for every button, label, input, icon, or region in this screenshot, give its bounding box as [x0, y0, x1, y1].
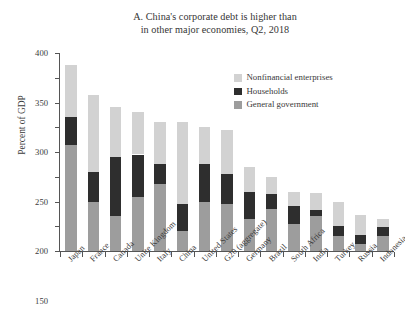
bar-segment-households: [377, 227, 389, 236]
bar-segment-households: [355, 235, 367, 244]
y-tick-mark: 250: [55, 127, 60, 128]
y-tick-mark: 350: [55, 78, 60, 79]
bar-segment-households: [65, 117, 77, 144]
bar-segment-households: [244, 192, 256, 219]
bar-canada: [110, 107, 122, 251]
chart-title: A. China's corporate debt is higher than…: [95, 10, 335, 36]
chart-legend: Nonfinancial enterprisesHouseholdsGenera…: [234, 71, 333, 112]
y-tick-mark: 400: [55, 53, 60, 54]
bar-unite-kingdom: [132, 112, 144, 251]
legend-item: General government: [234, 98, 333, 112]
bar-segment-nonfinancial-enterprises: [333, 202, 345, 227]
y-tick-label: 250: [35, 197, 48, 206]
bar-south-africa: [288, 192, 300, 251]
y-tick-label: 350: [35, 98, 48, 107]
bar-segment-nonfinancial-enterprises: [310, 193, 322, 210]
y-tick-mark: 150: [55, 177, 60, 178]
bar-segment-households: [221, 174, 233, 204]
y-tick-mark: 50: [55, 226, 60, 227]
bar-france: [88, 95, 100, 251]
bar-segment-nonfinancial-enterprises: [177, 122, 189, 204]
bar-segment-households: [154, 164, 166, 184]
chart-title-line-1: A. China's corporate debt is higher than: [95, 10, 335, 23]
y-tick-label: 400: [35, 49, 48, 58]
plot-area: 400350300250200150100500 JapanFranceCana…: [60, 53, 394, 251]
bar-segment-nonfinancial-enterprises: [244, 167, 256, 192]
y-tick-label: 200: [35, 247, 48, 256]
bar-united-states: [199, 127, 211, 251]
legend-item: Households: [234, 85, 333, 99]
bar-segment-nonfinancial-enterprises: [377, 219, 389, 227]
bar-segment-nonfinancial-enterprises: [154, 122, 166, 164]
bar-segment-households: [266, 194, 278, 209]
legend-swatch: [234, 74, 242, 82]
bar-segment-nonfinancial-enterprises: [199, 127, 211, 164]
bar-turkey: [333, 202, 345, 252]
bar-segment-nonfinancial-enterprises: [355, 215, 367, 235]
bar-indonesia: [377, 219, 389, 251]
legend-label: General government: [247, 100, 319, 109]
bar-segment-households: [132, 155, 144, 197]
bar-segment-nonfinancial-enterprises: [266, 177, 278, 194]
bar-segment-households: [177, 204, 189, 231]
y-tick-mark: 100: [55, 202, 60, 203]
bar-segment-households: [110, 157, 122, 216]
legend-swatch: [234, 88, 242, 96]
bar-china: [177, 122, 189, 251]
y-tick-mark: 300: [55, 103, 60, 104]
legend-item: Nonfinancial enterprises: [234, 71, 333, 85]
chart-title-line-2: in other major economies, Q2, 2018: [95, 23, 335, 36]
y-tick-mark: 200: [55, 152, 60, 153]
bar-segment-households: [310, 210, 322, 216]
bar-segment-nonfinancial-enterprises: [132, 112, 144, 154]
bar-segment-nonfinancial-enterprises: [288, 192, 300, 207]
legend-label: Nonfinancial enterprises: [247, 73, 333, 82]
bar-segment-households: [288, 206, 300, 223]
chart-figure: A. China's corporate debt is higher than…: [0, 0, 405, 323]
y-tick-label: 300: [35, 148, 48, 157]
bar-japan: [65, 65, 77, 251]
bar-segment-nonfinancial-enterprises: [88, 95, 100, 172]
x-tick-mark: [60, 252, 61, 257]
bar-segment-general-government: [88, 202, 100, 252]
bar-segment-general-government: [65, 145, 77, 251]
bar-segment-nonfinancial-enterprises: [110, 107, 122, 157]
bar-segment-nonfinancial-enterprises: [65, 65, 77, 117]
bar-segment-nonfinancial-enterprises: [221, 130, 233, 175]
bar-segment-households: [199, 164, 211, 201]
legend-swatch: [234, 101, 242, 109]
bar-segment-households: [333, 226, 345, 236]
bar-segment-general-government: [110, 216, 122, 251]
bar-segment-households: [88, 172, 100, 202]
legend-label: Households: [247, 87, 289, 96]
y-tick-label: 150: [35, 296, 48, 305]
bar-segment-general-government: [199, 202, 211, 252]
y-axis-title: Percent of GDP: [17, 70, 27, 180]
